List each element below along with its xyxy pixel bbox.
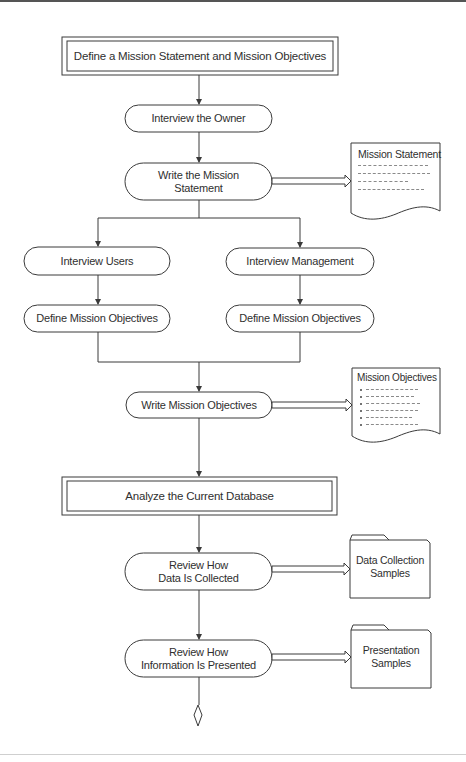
bullet-icon <box>360 424 362 426</box>
document-mission-objectives-title: Mission Objectives <box>357 372 437 383</box>
continuation-diamond <box>194 705 202 726</box>
activity-interview-owner: Interview the Owner <box>125 105 272 132</box>
bullet-icon <box>360 396 362 398</box>
activity-interview-users: Interview Users <box>24 247 170 275</box>
activity-write-mission-statement: Write the Mission Statement <box>125 163 272 200</box>
folder-data-collection-samples: Data Collection Samples <box>350 541 430 593</box>
activity-write-mission-objectives: Write Mission Objectives <box>126 392 272 418</box>
bullet-icon <box>360 417 362 419</box>
bullet-icon <box>360 410 362 412</box>
bullet-icon <box>360 389 362 391</box>
document-mission-statement-title: Mission Statement <box>358 148 441 160</box>
folder-presentation-samples: Presentation Samples <box>351 631 431 683</box>
activity-review-data-collected: Review How Data Is Collected <box>125 553 272 590</box>
document-mission-objectives-bullets <box>360 386 432 428</box>
activity-interview-management: Interview Management <box>226 248 374 275</box>
activity-define-objectives-right: Define Mission Objectives <box>226 305 374 332</box>
phase-label-define-mission: Define a Mission Statement and Mission O… <box>67 41 333 71</box>
document-mission-statement-placeholder-text <box>358 165 433 197</box>
bullet-icon <box>360 403 362 405</box>
activity-review-info-presented: Review How Information Is Presented <box>125 640 272 677</box>
activity-define-objectives-left: Define Mission Objectives <box>24 305 170 332</box>
phase-label-analyze-database: Analyze the Current Database <box>62 477 337 515</box>
